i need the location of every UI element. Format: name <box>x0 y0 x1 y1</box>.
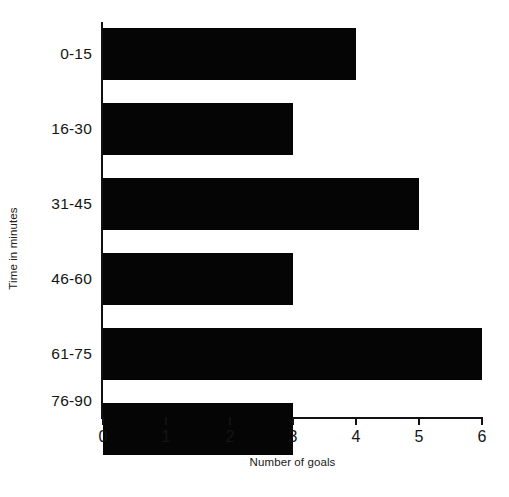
bar-61-75 <box>103 328 482 380</box>
x-axis-tick <box>229 417 231 425</box>
y-axis-tick-label: 76-90 <box>51 392 92 410</box>
x-axis-tick-label: 0 <box>83 428 123 446</box>
x-axis-title: Number of goals <box>103 456 482 468</box>
x-axis-tick-label: 3 <box>273 428 313 446</box>
x-axis-tick <box>292 417 294 425</box>
plot-area: 0 1 2 3 4 5 6 <box>103 22 482 417</box>
x-axis-tick <box>481 417 483 425</box>
x-axis-tick-label: 1 <box>146 428 186 446</box>
y-axis-tick-labels: 0-15 16-30 31-45 46-60 61-75 76-90 <box>30 22 98 417</box>
x-axis-tick <box>418 417 420 425</box>
x-axis-tick-label: 2 <box>210 428 250 446</box>
bar-31-45 <box>103 178 419 230</box>
y-axis-tick-label: 0-15 <box>60 45 92 63</box>
x-axis-tick-label: 4 <box>336 428 376 446</box>
y-axis-tick-label: 46-60 <box>51 270 92 288</box>
y-axis-tick-label: 61-75 <box>51 345 92 363</box>
x-axis-tick <box>102 417 104 425</box>
x-axis-tick <box>355 417 357 425</box>
x-axis-tick <box>165 417 167 425</box>
y-axis-tick-label: 31-45 <box>51 195 92 213</box>
bar-chart: Time in minutes 0-15 16-30 31-45 46-60 6… <box>0 0 509 497</box>
bar-16-30 <box>103 103 293 155</box>
bar-0-15 <box>103 28 356 80</box>
x-axis-tick-label: 5 <box>399 428 439 446</box>
x-axis-tick-label: 6 <box>462 428 502 446</box>
bar-76-90 <box>103 403 293 455</box>
bar-46-60 <box>103 253 293 305</box>
y-axis-tick-label: 16-30 <box>51 120 92 138</box>
y-axis-title: Time in minutes <box>0 0 26 497</box>
